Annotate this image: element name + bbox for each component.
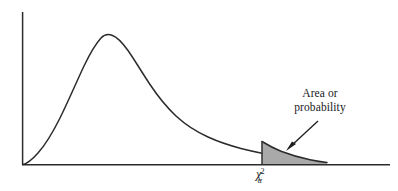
annotation-label-line-1: Area or	[267, 86, 373, 100]
chi-subscript-alpha: α	[258, 175, 262, 185]
annotation-label-line-2: probability	[267, 100, 373, 114]
x-axis-tick-label-critical-value: χ2α	[243, 166, 283, 184]
chi-square-curve	[23, 35, 262, 165]
annotation-arrow-line	[291, 121, 318, 146]
annotation-label: Area or probability	[267, 86, 373, 114]
chi-square-distribution-figure: Area or probability χ2α	[0, 0, 398, 191]
